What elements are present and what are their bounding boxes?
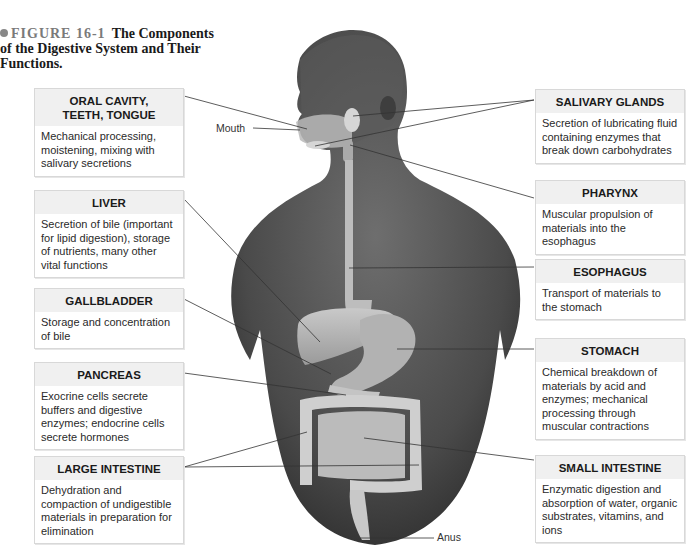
box-title: ESOPHAGUS [536,260,684,283]
box-title: SALIVARY GLANDS [536,90,684,113]
box-text: Secretion of lubricating fluid containin… [536,113,684,163]
figure-caption: FIGURE 16-1The Components of the Digesti… [0,26,220,71]
box-title: PHARYNX [536,181,684,204]
box-title: PANCREAS [35,363,183,386]
box-liver: LIVER Secretion of bile (important for l… [34,190,184,278]
box-text: Mechanical processing, moistening, mixin… [35,126,183,176]
figure-number: FIGURE 16-1 [11,26,106,41]
mouth-label: Mouth [216,122,245,134]
box-oral-cavity: ORAL CAVITY, TEETH, TONGUE Mechanical pr… [34,88,184,177]
box-text: Chemical breakdown of materials by acid … [536,362,684,439]
anus-label: Anus [437,531,461,543]
box-gallbladder: GALLBLADDER Storage and concentration of… [34,288,184,349]
box-title: GALLBLADDER [35,289,183,312]
box-pancreas: PANCREAS Exocrine cells secrete buffers … [34,362,184,450]
box-small-intestine: SMALL INTESTINE Enzymatic digestion and … [535,455,685,543]
box-large-intestine: LARGE INTESTINE Dehydration and compacti… [34,456,184,544]
box-text: Transport of materials to the stomach [536,283,684,319]
box-title: STOMACH [536,339,684,362]
box-stomach: STOMACH Chemical breakdown of materials … [535,338,685,440]
box-text: Storage and concentration of bile [35,312,183,348]
box-title: ORAL CAVITY, TEETH, TONGUE [35,89,183,126]
box-text: Exocrine cells secrete buffers and diges… [35,386,183,449]
box-salivary-glands: SALIVARY GLANDS Secretion of lubricating… [535,89,685,164]
caption-title-line2: of the Digestive System and Their Functi… [0,41,201,71]
bullet-icon [0,29,8,37]
box-title-line2: TEETH, TONGUE [62,109,155,121]
box-esophagus: ESOPHAGUS Transport of materials to the … [535,259,685,320]
box-text: Dehydration and compaction of undigestib… [35,480,183,543]
box-title: SMALL INTESTINE [536,456,684,479]
box-text: Enzymatic digestion and absorption of wa… [536,479,684,542]
box-title: LARGE INTESTINE [35,457,183,480]
box-title-line1: ORAL CAVITY, [70,95,149,107]
box-pharynx: PHARYNX Muscular propulsion of materials… [535,180,685,255]
box-title: LIVER [35,191,183,214]
box-text: Secretion of bile (important for lipid d… [35,214,183,277]
box-text: Muscular propulsion of materials into th… [536,204,684,254]
caption-title-line1: The Components [112,26,214,41]
